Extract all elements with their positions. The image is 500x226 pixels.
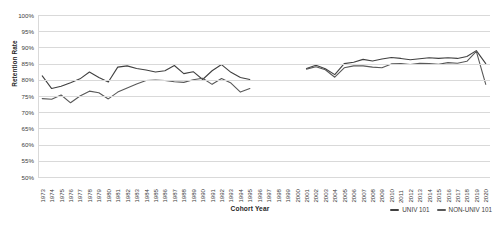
x-tick-label: 2000 [293,189,302,203]
gridline [38,112,490,113]
legend-swatch-icon [437,209,446,211]
y-tick-label: 60% [0,141,34,148]
gridline [38,96,490,97]
x-tick-label: 1997 [264,189,273,203]
x-tick-label: 2003 [321,189,330,203]
gridline [38,177,490,178]
y-tick-label: 85% [0,60,34,67]
y-tick-label: 50% [0,174,34,181]
y-tick-label: 65% [0,125,34,132]
x-axis-tick-labels: 1973197419751976197719781979198019811982… [38,179,490,203]
legend-item[interactable]: UNIV 101 [390,206,429,213]
x-tick-label: 1991 [208,189,217,203]
legend-swatch-icon [390,209,399,211]
x-tick-label: 2001 [302,189,311,203]
legend-label: UNIV 101 [402,206,429,213]
y-tick-label: 80% [0,76,34,83]
x-tick-label: 1998 [274,189,283,203]
x-tick-label: 2012 [406,189,415,203]
x-tick-label: 1993 [226,189,235,203]
x-tick-label: 1988 [179,189,188,203]
x-tick-label: 1984 [142,189,151,203]
y-tick-label: 55% [0,157,34,164]
x-tick-label: 1977 [75,189,84,203]
x-tick-label: 2017 [453,189,462,203]
x-tick-label: 2002 [311,189,320,203]
x-tick-label: 1990 [198,189,207,203]
x-tick-label: 2019 [472,189,481,203]
x-tick-label: 1980 [104,189,113,203]
gridline [38,161,490,162]
x-tick-label: 1973 [38,189,47,203]
gridline [38,64,490,65]
gridline [38,128,490,129]
x-tick-label: 2018 [462,189,471,203]
x-tick-label: 1978 [85,189,94,203]
gridline [38,31,490,32]
x-tick-label: 2005 [340,189,349,203]
plot-area [38,15,490,177]
x-tick-label: 2020 [481,189,490,203]
x-tick-label: 1999 [283,189,292,203]
gridline [38,80,490,81]
x-tick-label: 1986 [160,189,169,203]
x-tick-label: 1983 [132,189,141,203]
x-tick-label: 2007 [359,189,368,203]
gridline [38,145,490,146]
chart-legend: UNIV 101NON-UNIV 101 [390,206,492,213]
y-axis-tick-labels: 100%95%90%85%80%75%70%65%60%55%50% [0,15,34,177]
x-tick-label: 1992 [217,189,226,203]
x-tick-label: 2011 [396,190,405,203]
x-tick-label: 1982 [123,189,132,203]
x-tick-label: 1995 [245,189,254,203]
x-tick-label: 2014 [425,189,434,203]
x-tick-label: 2015 [434,189,443,203]
y-tick-label: 90% [0,44,34,51]
x-tick-label: 1975 [57,189,66,203]
x-tick-label: 2010 [387,189,396,203]
legend-label: NON-UNIV 101 [449,206,492,213]
legend-item[interactable]: NON-UNIV 101 [437,206,492,213]
x-tick-label: 2006 [349,189,358,203]
x-tick-label: 1994 [236,189,245,203]
retention-rate-line-chart: Retention Rate 100%95%90%85%80%75%70%65%… [0,0,500,226]
x-tick-label: 2004 [330,189,339,203]
y-tick-label: 70% [0,109,34,116]
x-tick-label: 2016 [444,189,453,203]
x-tick-label: 1974 [47,189,56,203]
gridline [38,47,490,48]
x-tick-label: 1996 [255,189,264,203]
x-tick-label: 1987 [170,189,179,203]
x-tick-label: 1985 [151,189,160,203]
x-tick-label: 2009 [377,189,386,203]
y-tick-label: 100% [0,12,34,19]
series-line [42,65,250,89]
gridline [38,15,490,16]
x-tick-label: 2008 [368,189,377,203]
y-tick-label: 95% [0,28,34,35]
x-tick-label: 1979 [94,189,103,203]
x-tick-label: 2013 [415,189,424,203]
y-tick-label: 75% [0,93,34,100]
x-tick-label: 1989 [189,189,198,203]
x-tick-label: 1976 [66,189,75,203]
x-tick-label: 1981 [113,189,122,203]
